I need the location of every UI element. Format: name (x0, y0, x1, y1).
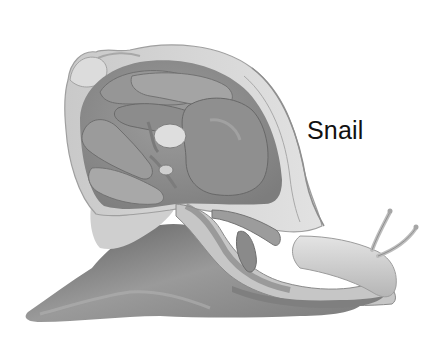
lower-tentacle (378, 228, 416, 256)
pale-organ (154, 124, 186, 148)
figure-label: Snail (307, 115, 364, 145)
snail-illustration (0, 0, 436, 351)
figure-canvas: Snail (0, 0, 436, 351)
